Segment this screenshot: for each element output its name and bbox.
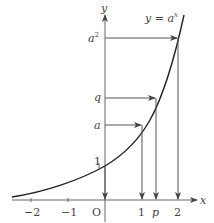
y-axis-label: y: [100, 2, 108, 15]
exponential-diagram: y x O y = ax −2 −1 1 p 2 1 a q a2: [0, 0, 214, 223]
x-tick-label: −1: [61, 206, 77, 219]
y-label-a: a: [94, 119, 101, 132]
x-axis-label: x: [200, 194, 207, 207]
curve-label: y = ax: [144, 11, 178, 25]
y-label-a-squared: a2: [88, 31, 99, 45]
y-label-one: 1: [94, 155, 101, 168]
mapping-arrows: [105, 38, 178, 199]
x-tick-label: 1: [138, 206, 145, 219]
x-tick-label: 2: [174, 206, 181, 219]
x-tick-label: −2: [24, 206, 40, 219]
x-tick-label: p: [152, 206, 159, 219]
origin-label: O: [92, 206, 101, 219]
y-label-q: q: [94, 91, 101, 104]
exponential-curve: [12, 15, 184, 197]
